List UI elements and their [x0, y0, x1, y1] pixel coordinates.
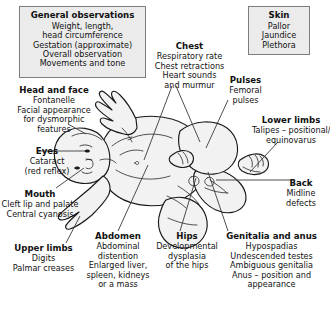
callout-upper-limbs-title: Upper limbs [1, 244, 86, 254]
callout-upper-limbs: Upper limbs Digits Palmar creases [1, 244, 86, 273]
callout-hips-title: Hips [153, 232, 221, 242]
callout-head-and-face-title: Head and face [2, 86, 106, 96]
callout-pulses: Pulses Femoral pulses [216, 76, 275, 105]
callout-abdomen: Abdomen Abdominal distention Enlarged li… [83, 232, 153, 289]
callout-back-title: Back [272, 179, 330, 189]
callout-abdomen-line-5: or a mass [83, 280, 153, 289]
callout-pulses-title: Pulses [216, 76, 275, 86]
callout-pulses-line-2: pulses [216, 96, 275, 105]
callout-eyes-line-2: (red reflex) [8, 167, 86, 176]
callout-head-and-face: Head and face Fontanelle Facial appearan… [2, 86, 106, 134]
callout-eyes: Eyes Cataract (red reflex) [8, 147, 86, 176]
callout-mouth-title: Mouth [0, 190, 80, 200]
callout-hips-line-3: of the hips [153, 261, 221, 270]
panel-general-observations: General observations Weight, length, hea… [19, 6, 146, 78]
panel-general-observations-line-5: Movements and tone [23, 59, 142, 68]
callout-eyes-title: Eyes [8, 147, 86, 157]
callout-head-and-face-line-4: features [2, 125, 106, 134]
callout-back: Back Midline defects [272, 179, 330, 208]
callout-genitalia-and-anus-line-5: appearance [213, 280, 330, 289]
callout-mouth-line-2: Central cyanosis [0, 210, 80, 219]
callout-hips: Hips Developmental dysplasia of the hips [153, 232, 221, 271]
callout-chest-title: Chest [140, 42, 239, 52]
panel-skin-line-3: Plethora [251, 41, 307, 50]
callout-lower-limbs-title: Lower limbs [252, 116, 330, 126]
callout-lower-limbs-line-2: equinovarus [252, 136, 330, 145]
callout-mouth: Mouth Cleft lip and palate Central cyano… [0, 190, 80, 219]
panel-general-observations-title: General observations [23, 11, 142, 21]
callout-genitalia-and-anus: Genitalia and anus Hypospadias Undescend… [213, 232, 330, 289]
callout-lower-limbs: Lower limbs Talipes – positional/ equino… [252, 116, 330, 145]
callout-back-line-2: defects [272, 199, 330, 208]
callout-abdomen-title: Abdomen [83, 232, 153, 242]
callout-genitalia-and-anus-title: Genitalia and anus [213, 232, 330, 242]
panel-skin-title: Skin [251, 11, 307, 21]
panel-skin: Skin Pallor Jaundice Plethora [248, 6, 310, 55]
callout-upper-limbs-line-2: Palmar creases [1, 264, 86, 273]
